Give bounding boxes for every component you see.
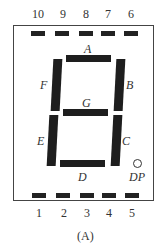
pin-label-8: 8 [78, 7, 94, 22]
decimal-point-label: DP [129, 170, 145, 185]
pin-5 [125, 193, 139, 198]
figure-caption: (A) [77, 229, 94, 244]
pin-6 [124, 31, 138, 36]
segment-g [63, 109, 108, 116]
pin-9 [55, 31, 69, 36]
segment-label-c: C [122, 134, 130, 149]
pin-label-10: 10 [30, 7, 46, 22]
pin-10 [31, 31, 45, 36]
segment-label-f: F [40, 78, 47, 93]
segment-d [60, 160, 105, 167]
pin-8 [79, 31, 93, 36]
pin-4 [102, 193, 116, 198]
decimal-point-circle [133, 159, 142, 168]
pin-2 [56, 193, 70, 198]
segment-label-e: E [37, 134, 44, 149]
pin-label-2: 2 [56, 206, 72, 221]
pin-1 [32, 193, 46, 198]
pin-label-4: 4 [101, 206, 117, 221]
segment-a [66, 55, 111, 62]
pin-label-3: 3 [79, 206, 95, 221]
segment-label-b: B [126, 78, 133, 93]
pin-7 [101, 31, 115, 36]
pin-label-7: 7 [100, 7, 116, 22]
pin-label-5: 5 [124, 206, 140, 221]
segment-label-d: D [78, 170, 87, 185]
pin-3 [80, 193, 94, 198]
pin-label-1: 1 [31, 206, 47, 221]
pin-label-9: 9 [55, 7, 71, 22]
pin-label-6: 6 [123, 7, 139, 22]
